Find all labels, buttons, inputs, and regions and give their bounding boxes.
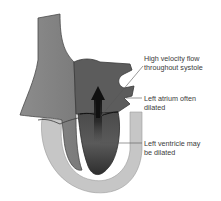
- label-line: Left atrium often: [144, 94, 196, 103]
- label-line: Left ventricle may: [144, 139, 200, 148]
- label-line: be dilated: [144, 148, 200, 157]
- label-line: dilated: [144, 103, 196, 112]
- label-line: throughout systole: [144, 63, 203, 72]
- label-high-velocity-flow: High velocity flow throughout systole: [144, 54, 203, 72]
- label-left-ventricle: Left ventricle may be dilated: [144, 139, 200, 157]
- left-atrium: [74, 59, 134, 114]
- label-left-atrium: Left atrium often dilated: [144, 94, 196, 112]
- heart-diagram: High velocity flow throughout systole Le…: [0, 0, 221, 201]
- label-line: High velocity flow: [144, 54, 203, 63]
